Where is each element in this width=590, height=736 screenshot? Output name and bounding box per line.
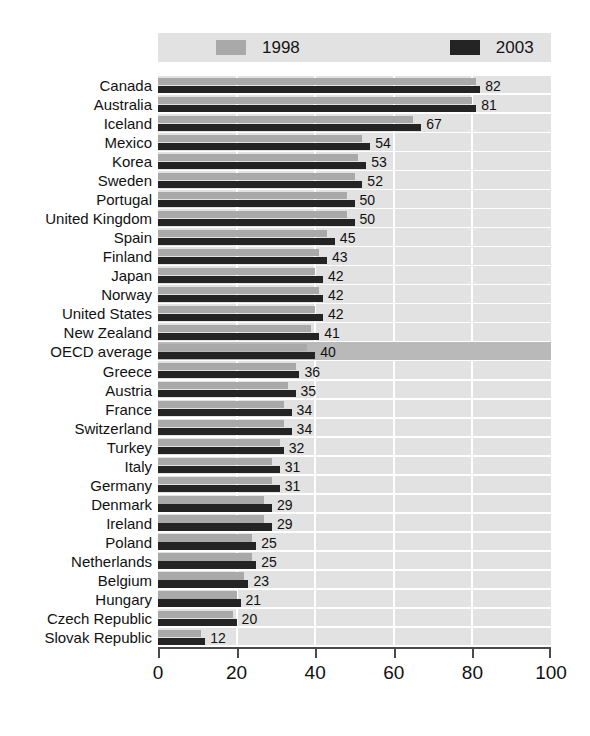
bar-row: 42 xyxy=(158,304,551,323)
category-label-korea: Korea xyxy=(0,152,152,171)
bar-2003 xyxy=(158,143,370,150)
bar-value-label: 82 xyxy=(485,78,501,94)
bar-row: 34 xyxy=(158,419,551,438)
bar-1998 xyxy=(158,572,244,579)
bar-row: 54 xyxy=(158,133,551,152)
bar-2003 xyxy=(158,390,296,397)
category-label-united-states: United States xyxy=(0,304,152,323)
bar-2003 xyxy=(158,162,366,169)
x-tick-100 xyxy=(549,647,551,658)
bar-1998 xyxy=(158,420,284,427)
category-label-norway: Norway xyxy=(0,285,152,304)
category-label-hungary: Hungary xyxy=(0,590,152,609)
category-axis-labels: CanadaAustraliaIcelandMexicoKoreaSwedenP… xyxy=(0,76,152,647)
bar-row: 25 xyxy=(158,552,551,571)
bar-row: 42 xyxy=(158,266,551,285)
bar-2003 xyxy=(158,200,355,207)
bar-1998 xyxy=(158,192,347,199)
bar-2003 xyxy=(158,219,355,226)
category-label-new-zealand: New Zealand xyxy=(0,323,152,342)
chart-figure: 1998 2003 CanadaAustraliaIcelandMexicoKo… xyxy=(0,0,590,736)
bar-row: 43 xyxy=(158,247,551,266)
bar-value-label: 36 xyxy=(304,364,320,380)
category-label-denmark: Denmark xyxy=(0,495,152,514)
bar-row: 21 xyxy=(158,590,551,609)
bar-2003 xyxy=(158,124,421,131)
bar-value-label: 31 xyxy=(285,459,301,475)
bar-2003 xyxy=(158,352,315,359)
bar-1998 xyxy=(158,553,252,560)
legend-swatch-1998-icon xyxy=(216,40,246,55)
bar-row: 50 xyxy=(158,190,551,209)
bar-value-label: 35 xyxy=(301,383,317,399)
bar-2003 xyxy=(158,599,241,606)
bar-value-label: 50 xyxy=(360,211,376,227)
bar-1998 xyxy=(158,401,284,408)
category-label-spain: Spain xyxy=(0,228,152,247)
bar-value-label: 12 xyxy=(210,630,226,646)
x-tick-label-60: 60 xyxy=(383,662,404,684)
bar-1998 xyxy=(158,78,476,85)
bar-1998 xyxy=(158,230,327,237)
bar-value-label: 81 xyxy=(481,97,497,113)
bar-2003 xyxy=(158,181,362,188)
bar-1998 xyxy=(158,630,201,637)
bar-2003 xyxy=(158,333,319,340)
bar-row: 34 xyxy=(158,400,551,419)
category-label-oecd-average: OECD average xyxy=(0,342,152,361)
bar-value-label: 29 xyxy=(277,497,293,513)
bar-1998 xyxy=(158,306,315,313)
bar-value-label: 34 xyxy=(297,421,313,437)
bar-row: 81 xyxy=(158,95,551,114)
x-tick-20 xyxy=(237,647,239,658)
legend-label-2003: 2003 xyxy=(496,38,534,58)
bar-value-label: 20 xyxy=(242,611,258,627)
bar-1998 xyxy=(158,268,315,275)
x-tick-label-20: 20 xyxy=(226,662,247,684)
bar-2003 xyxy=(158,561,256,568)
bar-row: 36 xyxy=(158,362,551,381)
category-label-mexico: Mexico xyxy=(0,133,152,152)
bar-2003 xyxy=(158,428,292,435)
category-label-greece: Greece xyxy=(0,362,152,381)
bar-1998 xyxy=(158,534,252,541)
bar-value-label: 42 xyxy=(328,268,344,284)
bar-2003 xyxy=(158,638,205,645)
bar-2003 xyxy=(158,371,299,378)
bar-2003 xyxy=(158,523,272,530)
bar-row: 29 xyxy=(158,495,551,514)
bar-value-label: 54 xyxy=(375,135,391,151)
bar-value-label: 53 xyxy=(371,154,387,170)
bar-1998 xyxy=(158,344,307,351)
x-tick-60 xyxy=(394,647,396,658)
category-label-japan: Japan xyxy=(0,266,152,285)
bar-row: 53 xyxy=(158,152,551,171)
bar-1998 xyxy=(158,97,472,104)
bar-row: 32 xyxy=(158,438,551,457)
bar-2003 xyxy=(158,257,327,264)
bar-1998 xyxy=(158,611,233,618)
category-label-france: France xyxy=(0,400,152,419)
legend-entry-1998: 1998 xyxy=(216,38,300,58)
bar-value-label: 23 xyxy=(253,573,269,589)
category-label-switzerland: Switzerland xyxy=(0,419,152,438)
bar-value-label: 50 xyxy=(360,192,376,208)
category-label-netherlands: Netherlands xyxy=(0,552,152,571)
bar-row: 12 xyxy=(158,628,551,647)
bar-2003 xyxy=(158,504,272,511)
bar-2003 xyxy=(158,619,237,626)
bar-value-label: 43 xyxy=(332,249,348,265)
bar-2003 xyxy=(158,466,280,473)
bar-2003 xyxy=(158,580,248,587)
bar-row: 50 xyxy=(158,209,551,228)
bar-row: 45 xyxy=(158,228,551,247)
bar-1998 xyxy=(158,116,413,123)
bar-value-label: 45 xyxy=(340,230,356,246)
category-label-iceland: Iceland xyxy=(0,114,152,133)
x-tick-0 xyxy=(158,647,160,658)
bar-1998 xyxy=(158,363,296,370)
bar-row: 31 xyxy=(158,457,551,476)
category-label-portugal: Portugal xyxy=(0,190,152,209)
x-tick-label-0: 0 xyxy=(153,662,164,684)
category-label-germany: Germany xyxy=(0,476,152,495)
